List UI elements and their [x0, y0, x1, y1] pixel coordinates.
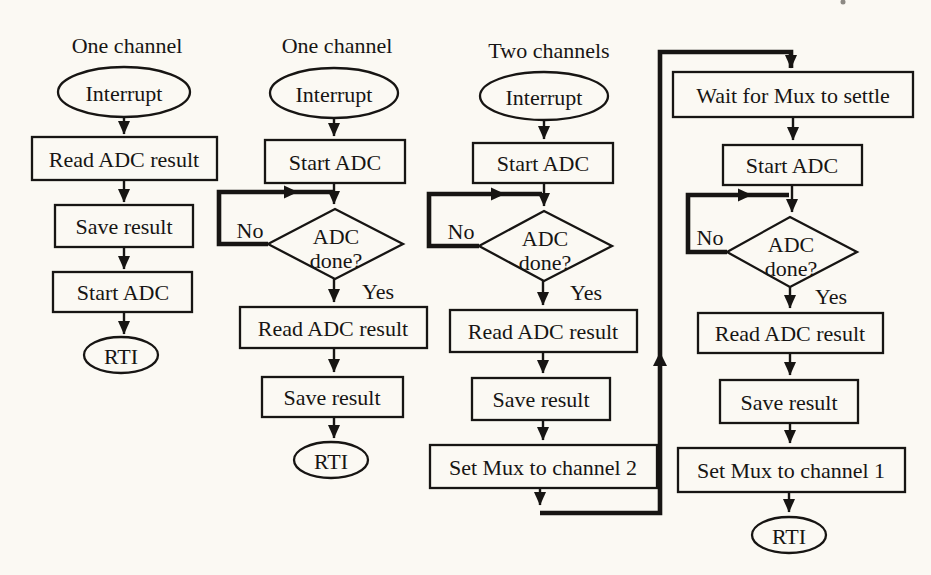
- no-loop-arrowhead: [491, 188, 505, 201]
- decision-label-line1: ADC: [313, 224, 359, 249]
- terminator-rti-label: RTI: [104, 344, 138, 369]
- process-box-label: Save result: [740, 390, 837, 415]
- process-box-label: Save result: [492, 387, 589, 412]
- process-box-label: Save result: [75, 214, 172, 239]
- process-box-label: Read ADC result: [468, 319, 618, 344]
- terminator-interrupt-label: Interrupt: [86, 81, 163, 106]
- column-title: One channel: [282, 33, 393, 58]
- process-box-label: Start ADC: [746, 153, 838, 178]
- process-box-label: Read ADC result: [258, 316, 408, 341]
- decision-label-line2: done?: [765, 256, 818, 281]
- process-box-label: Save result: [283, 385, 380, 410]
- decision-label-line2: done?: [310, 248, 363, 273]
- column-title: Two channels: [488, 38, 609, 63]
- edge-label-yes: Yes: [570, 280, 602, 305]
- column-one-channel-polled: One channel Interrupt Start ADC ADC done…: [219, 33, 427, 479]
- process-box-label: Start ADC: [289, 150, 381, 175]
- terminator-rti-label: RTI: [314, 449, 348, 474]
- no-loop-arrowhead: [738, 189, 752, 202]
- process-box-label: Set Mux to channel 1: [697, 458, 885, 483]
- scan-artifact-dot: [841, 0, 846, 5]
- decision-label-line2: done?: [519, 250, 572, 275]
- decision-label-line1: ADC: [768, 232, 814, 257]
- column-title: One channel: [72, 33, 183, 58]
- edge-label-yes: Yes: [362, 279, 394, 304]
- flowchart-canvas: One channel Interrupt Read ADC result Sa…: [0, 0, 931, 575]
- no-loop-arrowhead: [284, 186, 298, 199]
- terminator-interrupt-label: Interrupt: [296, 82, 373, 107]
- process-box-label: Start ADC: [497, 151, 589, 176]
- process-box-label: Read ADC result: [715, 321, 865, 346]
- terminator-interrupt-label: Interrupt: [506, 85, 583, 110]
- process-box-label: Set Mux to channel 2: [449, 455, 637, 480]
- edge-label-no: No: [237, 218, 264, 243]
- terminator-rti-label: RTI: [772, 524, 806, 549]
- column-two-channels-part2: Wait for Mux to settle Start ADC ADC don…: [673, 72, 913, 553]
- column-one-channel-simple: One channel Interrupt Read ADC result Sa…: [32, 33, 217, 374]
- edge-label-yes: Yes: [815, 284, 847, 309]
- flowchart-figure: One channel Interrupt Read ADC result Sa…: [0, 0, 931, 575]
- edge-label-no: No: [448, 219, 475, 244]
- process-box-label: Read ADC result: [49, 147, 199, 172]
- process-box-label: Start ADC: [77, 280, 169, 305]
- decision-label-line1: ADC: [522, 226, 568, 251]
- edge-label-no: No: [697, 225, 724, 250]
- connector-up-arrowhead: [653, 352, 667, 366]
- process-box-label: Wait for Mux to settle: [696, 83, 890, 108]
